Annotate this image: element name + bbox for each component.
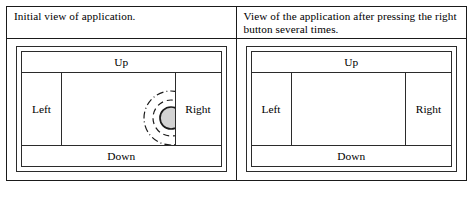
right-button[interactable]: Right: [405, 73, 451, 145]
drawing-canvas-initial: [62, 73, 175, 145]
left-button[interactable]: Left: [22, 73, 62, 145]
app-middle-row: Left Right: [252, 73, 452, 145]
panel-after-right-presses: View of the application after pressing t…: [237, 7, 467, 180]
up-button[interactable]: Up: [22, 52, 221, 73]
figure-table: Initial view of application. Up Left Rig…: [6, 6, 467, 181]
app-middle-row: Left Right: [22, 73, 221, 145]
panel-caption: Initial view of application.: [7, 7, 236, 39]
right-button[interactable]: Right: [175, 73, 221, 145]
application-mockup: Up Left Right Down: [7, 39, 236, 180]
ball-and-rings-graphic: [292, 73, 406, 145]
app-window-inner: Up Left Right Down: [21, 51, 222, 167]
panel-initial-view: Initial view of application. Up Left Rig…: [7, 7, 237, 180]
left-button[interactable]: Left: [252, 73, 292, 145]
drawing-canvas-after: [292, 73, 406, 145]
up-button[interactable]: Up: [252, 52, 452, 73]
ball-and-rings-graphic: [62, 73, 175, 145]
app-window-inner: Up Left Right Down: [251, 51, 453, 167]
panel-caption: View of the application after pressing t…: [237, 7, 467, 39]
application-mockup: Up Left Right Down: [237, 39, 467, 180]
ball-shape: [160, 107, 175, 129]
down-button[interactable]: Down: [252, 145, 452, 166]
app-window: Up Left Right Down: [246, 46, 458, 172]
down-button[interactable]: Down: [22, 145, 221, 166]
app-window: Up Left Right Down: [16, 46, 227, 172]
